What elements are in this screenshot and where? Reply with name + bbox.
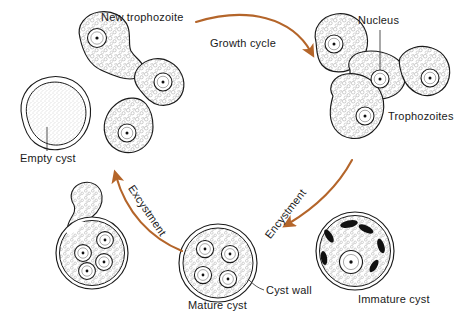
label-nucleus: Nucleus — [358, 14, 399, 26]
diagram-canvas: New trophozoite Growth cycle Nucleus Tro… — [0, 0, 473, 327]
label-cyst-wall: Cyst wall — [266, 284, 312, 296]
label-empty-cyst: Empty cyst — [20, 152, 76, 164]
cyst-wall-inner — [183, 228, 253, 298]
label-trophozoites: Trophozoites — [388, 110, 454, 122]
stage-empty-cyst — [21, 77, 91, 151]
stage-excysting-cyst — [56, 182, 128, 289]
label-new-trophozoite: New trophozoite — [101, 11, 184, 23]
label-immature-cyst: Immature cyst — [358, 293, 430, 305]
stage-mature-cyst — [179, 224, 264, 302]
stage-immature-cyst — [316, 212, 394, 290]
label-growth-cycle: Growth cycle — [210, 37, 276, 49]
stage-new-trophozoite-chain — [79, 12, 184, 153]
label-mature-cyst: Mature cyst — [188, 299, 247, 311]
